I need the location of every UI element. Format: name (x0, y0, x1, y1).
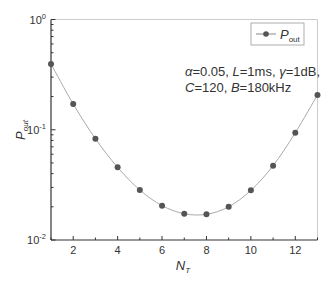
data-point-marker (315, 92, 321, 98)
parameter-annotation: α=0.05, L=1ms, γ=1dB, C=120, B=180kHz (185, 64, 320, 95)
data-point-marker (137, 187, 143, 193)
x-tick-label: 8 (203, 244, 209, 256)
data-point-marker (115, 164, 121, 170)
legend: Pout (251, 23, 304, 45)
x-tick-label: 2 (70, 244, 76, 256)
x-tick-label: 6 (159, 244, 165, 256)
legend-marker-icon (263, 31, 269, 37)
data-point-marker (48, 61, 54, 67)
annotation-line-1: α=0.05, L=1ms, γ=1dB, (185, 64, 320, 79)
data-point-marker (248, 187, 254, 193)
data-point-marker (203, 211, 209, 217)
annotation-line-2: C=120, B=180kHz (185, 80, 291, 95)
y-tick-label: 10-2 (27, 232, 46, 246)
x-axis-ticks: 24681012 (51, 236, 318, 256)
y-tick-label: 100 (30, 12, 46, 26)
data-point-marker (226, 204, 232, 210)
data-point-marker (292, 130, 298, 136)
y-axis-label: Pout (13, 119, 30, 140)
outage-probability-chart: 24681012 10-210-1100 Pout α=0.05, L=1ms,… (0, 0, 335, 288)
data-point-marker (181, 211, 187, 217)
data-point-marker (159, 203, 165, 209)
plot-frame (51, 20, 318, 241)
x-tick-label: 10 (245, 244, 257, 256)
x-tick-label: 12 (289, 244, 301, 256)
data-point-marker (92, 136, 98, 142)
data-point-marker (270, 163, 276, 169)
x-axis-label: NT (176, 258, 191, 275)
data-point-marker (70, 101, 76, 107)
x-tick-label: 4 (115, 244, 121, 256)
